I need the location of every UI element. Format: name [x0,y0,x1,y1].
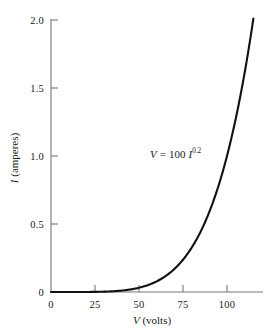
x-axis-title-variable: V [133,314,140,326]
y-axis-ticks [51,20,58,224]
figure-canvas: 2.0 1.5 1.0 0.5 0 0 25 50 75 100 V (volt… [0,0,275,336]
x-tick-label-100: 100 [219,299,235,310]
equation-coefficient: 100 [169,148,186,160]
y-tick-label-1-5: 1.5 [20,83,44,94]
y-axis-title-unit: (amperes) [8,133,20,177]
equation-equals-sign: = [160,148,166,160]
equation-lhs: V [150,148,157,160]
x-axis-title: V (volts) [133,314,171,326]
x-tick-label-0: 0 [48,299,53,310]
equation-annotation: V=100I0.2 [150,148,201,160]
x-tick-label-25: 25 [90,299,101,310]
x-tick-label-75: 75 [178,299,189,310]
x-axis-title-unit: (volts) [142,314,171,326]
y-axis-title: I (amperes) [8,133,20,183]
y-axis-title-variable: I [8,180,20,184]
y-tick-label-0: 0 [20,287,44,298]
y-tick-label-0-5: 0.5 [20,219,44,230]
x-tick-label-50: 50 [134,299,145,310]
y-tick-label-2-0: 2.0 [20,15,44,26]
y-tick-label-1-0: 1.0 [20,151,44,162]
equation-exponent: 0.2 [192,147,201,155]
